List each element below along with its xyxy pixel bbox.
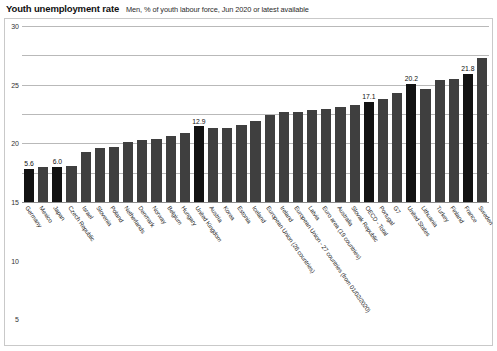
x-label-slot: Portugal bbox=[376, 204, 390, 324]
x-label-slot: European Union (28 countries) bbox=[263, 204, 277, 324]
bar-slot bbox=[36, 26, 50, 202]
page-title: Youth unemployment rate bbox=[6, 3, 119, 14]
bar[interactable] bbox=[81, 152, 91, 202]
bar[interactable] bbox=[350, 105, 360, 202]
bar[interactable] bbox=[477, 58, 487, 202]
bar-slot bbox=[206, 26, 220, 202]
bar-slot: 12.9 bbox=[192, 26, 206, 202]
x-label-slot: Denmark bbox=[135, 204, 149, 324]
bar[interactable] bbox=[392, 93, 402, 202]
x-label-slot: OECD - Total bbox=[362, 204, 376, 324]
bar-slot bbox=[220, 26, 234, 202]
bar[interactable] bbox=[449, 79, 459, 202]
x-axis-labels: GermanyMexicoJapanCzech RepublicIsraelSl… bbox=[22, 204, 489, 324]
x-label-slot: Ireland bbox=[277, 204, 291, 324]
bar-series: 5.66.012.917.120.221.8 bbox=[22, 26, 489, 202]
bar[interactable] bbox=[321, 109, 331, 202]
bar-slot bbox=[135, 26, 149, 202]
x-label-slot: United Kingdom bbox=[192, 204, 206, 324]
bar[interactable] bbox=[279, 112, 289, 202]
bar[interactable]: 21.8 bbox=[463, 74, 473, 202]
bar-slot bbox=[305, 26, 319, 202]
bar-slot: 6.0 bbox=[50, 26, 64, 202]
bar[interactable]: 17.1 bbox=[364, 102, 374, 202]
bar-value-label: 12.9 bbox=[192, 119, 205, 126]
x-label-slot: Estonia bbox=[234, 204, 248, 324]
x-label-slot: Euro area (19 countries) bbox=[319, 204, 333, 324]
x-label-slot: Netherlands bbox=[121, 204, 135, 324]
bar[interactable] bbox=[307, 110, 317, 202]
x-label-slot: Finland bbox=[447, 204, 461, 324]
bar[interactable]: 5.6 bbox=[24, 169, 34, 202]
bar[interactable] bbox=[123, 142, 133, 202]
bar[interactable] bbox=[208, 128, 218, 202]
bar-slot bbox=[178, 26, 192, 202]
bar[interactable] bbox=[250, 121, 260, 202]
x-label-slot: France bbox=[461, 204, 475, 324]
bar-slot bbox=[333, 26, 347, 202]
x-label-slot: Turkey bbox=[433, 204, 447, 324]
bar[interactable] bbox=[265, 115, 275, 202]
bar-slot bbox=[79, 26, 93, 202]
y-axis-tick-30: 30 bbox=[11, 23, 19, 30]
bar-slot bbox=[376, 26, 390, 202]
y-axis-tick-5: 5 bbox=[15, 316, 19, 323]
bar-value-label: 6.0 bbox=[53, 159, 62, 166]
x-label-slot: Israel bbox=[79, 204, 93, 324]
x-label-slot: Mexico bbox=[36, 204, 50, 324]
bar-slot bbox=[433, 26, 447, 202]
bar[interactable] bbox=[137, 140, 147, 202]
x-label-slot: Korea bbox=[220, 204, 234, 324]
x-label-slot: Slovak Republic bbox=[348, 204, 362, 324]
bar[interactable] bbox=[236, 125, 246, 202]
x-label-slot: Sweden bbox=[475, 204, 489, 324]
x-axis-label: G7 bbox=[392, 205, 402, 215]
bar-value-label: 20.2 bbox=[405, 76, 418, 83]
bar-slot bbox=[319, 26, 333, 202]
bar-slot: 20.2 bbox=[404, 26, 418, 202]
bar[interactable] bbox=[166, 136, 176, 202]
x-label-slot: Iceland bbox=[249, 204, 263, 324]
bar[interactable]: 12.9 bbox=[194, 126, 204, 202]
bar[interactable] bbox=[109, 147, 119, 202]
bar-slot bbox=[447, 26, 461, 202]
bar[interactable] bbox=[38, 167, 48, 202]
x-label-slot: Japan bbox=[50, 204, 64, 324]
bar-slot bbox=[263, 26, 277, 202]
bar[interactable] bbox=[222, 128, 232, 203]
bar[interactable] bbox=[95, 148, 105, 202]
x-label-slot: Czech Republic bbox=[64, 204, 78, 324]
bar-value-label: 21.8 bbox=[461, 66, 474, 73]
bar[interactable] bbox=[378, 99, 388, 202]
bar[interactable] bbox=[180, 133, 190, 202]
x-label-slot: United States bbox=[404, 204, 418, 324]
bar-slot bbox=[291, 26, 305, 202]
bar-slot: 17.1 bbox=[362, 26, 376, 202]
x-label-slot: Poland bbox=[107, 204, 121, 324]
x-label-slot: Hungary bbox=[178, 204, 192, 324]
bar[interactable]: 20.2 bbox=[406, 84, 416, 203]
gridline-0: 0 bbox=[22, 202, 489, 203]
bar-slot bbox=[348, 26, 362, 202]
x-label-slot: G7 bbox=[390, 204, 404, 324]
bar-slot bbox=[149, 26, 163, 202]
bar-value-label: 17.1 bbox=[362, 94, 375, 101]
bar-slot: 5.6 bbox=[22, 26, 36, 202]
bar-slot bbox=[475, 26, 489, 202]
bar-slot bbox=[249, 26, 263, 202]
bar[interactable] bbox=[420, 89, 430, 202]
bar[interactable] bbox=[66, 166, 76, 202]
x-label-slot: Latvia bbox=[305, 204, 319, 324]
bar-slot bbox=[107, 26, 121, 202]
x-label-slot: Australia bbox=[333, 204, 347, 324]
bar[interactable] bbox=[335, 107, 345, 202]
bar[interactable] bbox=[435, 80, 445, 202]
bar[interactable] bbox=[293, 112, 303, 202]
chart-page: Youth unemployment rate Men, % of youth … bbox=[0, 0, 497, 351]
bar-slot bbox=[64, 26, 78, 202]
x-label-slot: Germany bbox=[22, 204, 36, 324]
bar[interactable]: 6.0 bbox=[52, 167, 62, 202]
bar-slot bbox=[277, 26, 291, 202]
bar[interactable] bbox=[151, 139, 161, 202]
bar-slot bbox=[121, 26, 135, 202]
